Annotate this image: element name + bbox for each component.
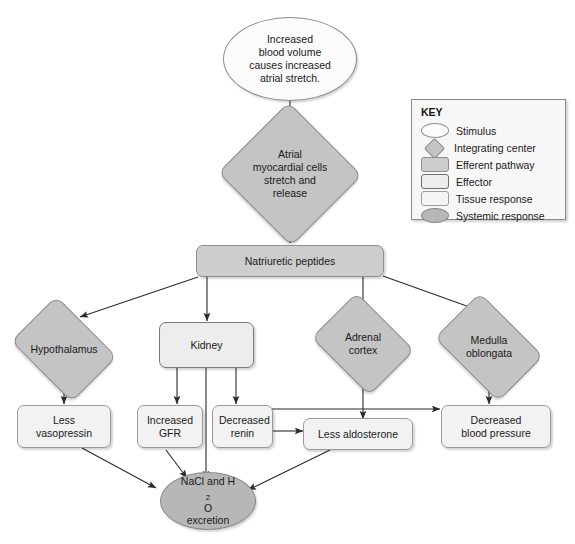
edge-peptides-hypothalamus [80, 277, 198, 317]
atrial-line-3: stretch and [241, 174, 339, 187]
legend-item-stimulus: Stimulus [421, 123, 496, 138]
stimulus-line-1: Increased [227, 33, 353, 46]
legend-title: KEY [421, 106, 443, 118]
bp-line-1: Decreased [445, 414, 547, 427]
node-nacl-h2o-excretion[interactable]: NaCl and H2O excretion [160, 472, 256, 530]
renin-line-2: renin [216, 427, 269, 440]
vasopressin-line-2: vasopressin [21, 427, 107, 440]
medulla-line-2: oblongata [447, 347, 531, 360]
node-decreased-renin[interactable]: Decreased renin [212, 405, 273, 448]
node-stimulus[interactable]: Increased blood volume causes increased … [223, 17, 357, 101]
bp-line-2: blood pressure [445, 427, 547, 440]
legend-key: KEY Stimulus Integrating center Efferent… [411, 99, 566, 220]
node-atrial-label: Atrial myocardial cells stretch and rele… [238, 148, 342, 199]
legend-label-effector: Effector [456, 176, 492, 188]
node-adrenal-cortex[interactable]: Adrenal cortex [322, 312, 404, 376]
effector-shape-icon [421, 174, 449, 189]
node-renin-label: Decreased renin [213, 414, 272, 440]
atrial-line-2: myocardial cells [241, 161, 339, 174]
node-bp-label: Decreased blood pressure [442, 414, 550, 440]
node-atrial-myocardial-cells[interactable]: Atrial myocardial cells stretch and rele… [238, 124, 342, 224]
node-hypothalamus[interactable]: Hypothalamus [21, 317, 107, 381]
node-stimulus-label: Increased blood volume causes increased … [224, 33, 356, 84]
node-medulla-label: Medulla oblongata [444, 334, 534, 360]
legend-item-efferent-pathway: Efferent pathway [421, 157, 535, 172]
medulla-line-1: Medulla [447, 334, 531, 347]
node-excretion-label: NaCl and H2O excretion [161, 475, 255, 528]
atrial-line-1: Atrial [241, 148, 339, 161]
renin-line-1: Decreased [216, 414, 269, 427]
legend-label-systemic-response: Systemic response [456, 210, 545, 222]
node-vasopressin-label: Less vasopressin [18, 414, 110, 440]
node-natriuretic-peptides[interactable]: Natriuretic peptides [196, 245, 384, 277]
node-aldosterone-label: Less aldosterone [304, 428, 412, 441]
node-increased-gfr[interactable]: Increased GFR [137, 405, 203, 448]
flowchart-canvas: Increased blood volume causes increased … [0, 0, 575, 544]
vasopressin-line-1: Less [21, 414, 107, 427]
efferent-pathway-shape-icon [421, 157, 449, 172]
legend-item-integrating-center: Integrating center [421, 140, 536, 155]
node-less-aldosterone[interactable]: Less aldosterone [303, 418, 413, 450]
edge-aldosterone-excretion [248, 450, 330, 490]
diamond-glyph [424, 137, 445, 158]
legend-label-stimulus: Stimulus [456, 125, 496, 137]
legend-item-effector: Effector [421, 174, 492, 189]
legend-label-efferent-pathway: Efferent pathway [456, 159, 535, 171]
legend-item-systemic-response: Systemic response [421, 208, 545, 223]
legend-item-tissue-response: Tissue response [421, 191, 533, 206]
node-adrenal-label: Adrenal cortex [322, 331, 404, 357]
stimulus-shape-icon [421, 123, 449, 138]
systemic-response-shape-icon [421, 208, 449, 223]
excretion-suffix: O [167, 502, 249, 515]
stimulus-line-4: atrial stretch. [227, 72, 353, 85]
excretion-line-2: excretion [164, 514, 252, 527]
stimulus-line-2: blood volume [227, 46, 353, 59]
node-decreased-blood-pressure[interactable]: Decreased blood pressure [441, 405, 551, 448]
gfr-line-1: Increased [141, 414, 199, 427]
stimulus-line-3: causes increased [227, 59, 353, 72]
node-gfr-label: Increased GFR [138, 414, 202, 440]
adrenal-line-1: Adrenal [325, 331, 401, 344]
excretion-subscript: 2 [206, 492, 210, 501]
legend-label-integrating-center: Integrating center [454, 142, 536, 154]
excretion-line-1: NaCl and H2O [164, 475, 252, 515]
edge-vasopressin-excretion [82, 448, 156, 488]
node-hypothalamus-label: Hypothalamus [21, 343, 107, 356]
atrial-line-4: release [241, 187, 339, 200]
node-kidney-label: Kidney [160, 339, 253, 352]
node-peptides-label: Natriuretic peptides [197, 255, 383, 268]
gfr-line-2: GFR [141, 427, 199, 440]
integrating-center-shape-icon [421, 141, 447, 154]
node-less-vasopressin[interactable]: Less vasopressin [17, 405, 111, 448]
node-medulla-oblongata[interactable]: Medulla oblongata [444, 315, 534, 379]
tissue-response-shape-icon [421, 191, 449, 206]
adrenal-line-2: cortex [325, 344, 401, 357]
legend-label-tissue-response: Tissue response [456, 193, 533, 205]
node-kidney[interactable]: Kidney [159, 322, 254, 368]
excretion-prefix: NaCl and H [167, 475, 249, 488]
